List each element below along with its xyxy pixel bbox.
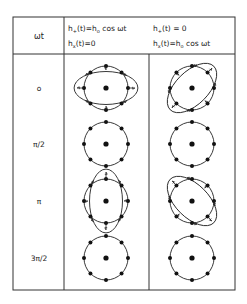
test-particle xyxy=(206,158,210,162)
header-cross-line2: hx(t)=ho cos ωt xyxy=(153,39,210,49)
phase-label: π/2 xyxy=(33,140,45,149)
test-particle xyxy=(82,142,86,146)
test-particle xyxy=(104,164,108,168)
center-particle xyxy=(189,198,194,203)
header-plus-line1: h+(t)=ho cos ωt xyxy=(68,24,127,34)
ring-diagrams xyxy=(74,55,225,282)
test-particle xyxy=(120,272,124,276)
test-particle xyxy=(174,126,178,130)
test-particle xyxy=(120,240,124,244)
center-particle xyxy=(103,255,108,260)
test-particle xyxy=(120,126,124,130)
test-particle xyxy=(88,272,92,276)
test-particle xyxy=(88,240,92,244)
test-particle xyxy=(88,158,92,162)
header-omega-t: ωt xyxy=(34,32,44,41)
header-plus-line2: hx(t)=0 xyxy=(68,39,96,49)
center-particle xyxy=(189,141,194,146)
test-particle xyxy=(104,120,108,124)
test-particle xyxy=(120,158,124,162)
table-border xyxy=(13,17,235,290)
test-particle xyxy=(212,142,216,146)
test-particle xyxy=(190,164,194,168)
test-particle xyxy=(82,256,86,260)
test-particle xyxy=(206,126,210,130)
center-particle xyxy=(189,255,194,260)
test-particle xyxy=(168,142,172,146)
test-particle xyxy=(174,240,178,244)
polarization-table: ωt h+(t)=ho cos ωt hx(t)=0 h+(t) = 0 hx(… xyxy=(0,0,247,304)
phase-label: o xyxy=(37,84,42,93)
test-particle xyxy=(88,126,92,130)
header-cross-line1: h+(t) = 0 xyxy=(153,24,187,34)
phase-label: π xyxy=(37,197,42,206)
test-particle xyxy=(174,158,178,162)
test-particle xyxy=(104,278,108,282)
center-particle xyxy=(103,198,108,203)
test-particle xyxy=(168,256,172,260)
center-particle xyxy=(189,85,194,90)
test-particle xyxy=(126,256,130,260)
test-particle xyxy=(206,272,210,276)
test-particle xyxy=(174,272,178,276)
test-particle xyxy=(104,234,108,238)
phase-label: 3π/2 xyxy=(31,254,48,263)
test-particle xyxy=(190,120,194,124)
test-particle xyxy=(190,234,194,238)
test-particle xyxy=(212,256,216,260)
test-particle xyxy=(126,142,130,146)
center-particle xyxy=(103,141,108,146)
center-particle xyxy=(103,85,108,90)
test-particle xyxy=(190,278,194,282)
test-particle xyxy=(206,240,210,244)
